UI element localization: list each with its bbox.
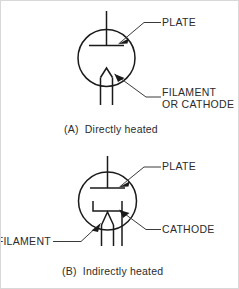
label-plate-a: PLATE — [162, 16, 196, 28]
label-cathode-b: CATHODE — [162, 223, 215, 235]
cathode-electrode-b — [93, 201, 122, 211]
caption-b: (B) Indirectly heated — [62, 265, 163, 277]
filament-electrode-a — [101, 68, 113, 78]
vacuum-tube-symbols-figure: PLATE FILAMENT OR CATHODE (A) Directly h… — [1, 1, 239, 289]
label-plate-b: PLATE — [162, 160, 196, 172]
diagram-directly-heated: PLATE FILAMENT OR CATHODE (A) Directly h… — [64, 11, 234, 135]
label-filament-line2-a: OR CATHODE — [162, 98, 234, 110]
diagram-indirectly-heated: PLATE CATHODE FILAMENT (B) Indirectly he… — [1, 156, 215, 277]
caption-a: (A) Directly heated — [64, 123, 158, 135]
filament-electrode-b — [102, 212, 114, 225]
filament-leader-arrowhead-b — [92, 224, 101, 233]
figure-page: PLATE FILAMENT OR CATHODE (A) Directly h… — [0, 0, 239, 289]
label-filament-b: FILAMENT — [1, 235, 51, 247]
label-filament-line1-a: FILAMENT — [162, 86, 217, 98]
